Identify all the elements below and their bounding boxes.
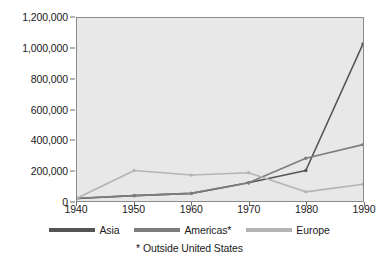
series-lines [77,18,363,201]
x-tick-label: 1950 [122,204,145,215]
x-tick-label: 1980 [295,204,318,215]
y-axis-ticks [0,17,76,202]
y-tick-mark [70,17,75,18]
legend-label: Americas* [184,225,231,236]
data-point [133,169,136,172]
data-point [361,183,363,186]
data-point [133,194,136,197]
x-tick-label: 1940 [65,204,88,215]
data-point [361,42,363,45]
legend-swatch [134,228,180,232]
data-point [190,173,193,176]
legend-label: Asia [99,225,119,236]
y-tick-mark [70,140,75,141]
data-point [247,181,250,184]
x-tick-label: 1990 [353,204,376,215]
y-tick-mark [70,109,75,110]
x-tick-label: 1970 [237,204,260,215]
legend-swatch [246,228,292,232]
chart-legend: AsiaAmericas*Europe [0,225,379,236]
y-tick-mark [70,47,75,48]
data-point [361,143,363,146]
data-point [304,157,307,160]
series-line-europe [77,171,363,199]
series-line-asia [77,44,363,199]
legend-item-europe[interactable]: Europe [246,225,329,236]
data-point [304,190,307,193]
y-tick-mark [70,78,75,79]
data-point [304,169,307,172]
legend-item-americas[interactable]: Americas* [134,225,231,236]
data-point [247,171,250,174]
data-point [190,192,193,195]
legend-label: Europe [296,225,329,236]
y-tick-mark [70,171,75,172]
x-axis-labels: 194019501960197019801990 [76,204,364,220]
x-tick-label: 1960 [180,204,203,215]
chart-footnote: * Outside United States [0,243,379,254]
legend-swatch [49,228,95,232]
line-chart: 0200,000400,000600,000800,0001,000,0001,… [0,0,379,263]
plot-area [76,17,364,202]
legend-item-asia[interactable]: Asia [49,225,119,236]
